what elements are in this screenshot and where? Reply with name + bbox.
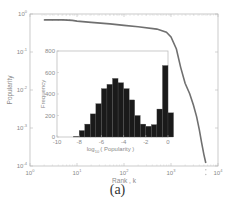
marker <box>66 15 67 16</box>
marker <box>158 15 159 16</box>
marker <box>122 15 123 16</box>
marker <box>154 15 155 16</box>
inset-x-tick-label: 0 <box>166 139 170 145</box>
histogram-bar <box>85 124 91 137</box>
histogram-bar <box>124 89 130 137</box>
histogram-bar <box>168 113 174 137</box>
data-marker <box>205 174 206 175</box>
inset-x-tick-label: -6 <box>99 139 105 145</box>
histogram-bar <box>146 126 152 137</box>
inset-y-axis-label: Frequency <box>40 80 46 108</box>
marker <box>98 15 99 16</box>
marker <box>166 15 167 16</box>
marker <box>210 15 211 16</box>
histogram-bar <box>96 104 102 137</box>
marker <box>178 15 179 16</box>
marker <box>82 15 83 16</box>
inset-y-tick-label: 200 <box>45 113 56 119</box>
marker <box>162 15 163 16</box>
marker <box>106 15 107 16</box>
marker <box>190 15 191 16</box>
marker <box>194 15 195 16</box>
marker <box>118 15 119 16</box>
histogram-bar <box>107 84 113 137</box>
histogram-bar <box>129 100 135 137</box>
x-tick-label: 101 <box>73 168 83 176</box>
marker <box>198 15 199 16</box>
x-tick-label: 104 <box>214 168 224 176</box>
marker <box>206 15 207 16</box>
y-tick-label: 10-1 <box>17 47 28 55</box>
histogram-bar <box>101 89 107 137</box>
data-marker <box>205 169 206 170</box>
marker <box>126 15 127 16</box>
y-tick-label: 10-2 <box>17 85 28 93</box>
y-axis-label: Popularity <box>6 75 14 105</box>
histogram-bar <box>113 78 119 137</box>
histogram-bar <box>151 125 157 137</box>
caption: (a) <box>0 182 235 198</box>
y-tick-label: 100 <box>18 9 28 17</box>
marker <box>74 15 75 16</box>
marker <box>130 15 131 16</box>
y-tick-label: 10-4 <box>17 161 28 169</box>
inset-x-tick-label: -8 <box>77 139 83 145</box>
histogram-bar <box>162 66 168 137</box>
histogram-bar <box>74 136 80 137</box>
marker <box>86 15 87 16</box>
marker <box>54 15 55 16</box>
x-tick-label: 100 <box>26 168 36 176</box>
marker <box>138 15 139 16</box>
histogram-bar <box>140 124 146 137</box>
marker <box>58 15 59 16</box>
marker <box>182 15 183 16</box>
marker <box>102 15 103 16</box>
marker <box>170 15 171 16</box>
marker <box>142 15 143 16</box>
marker <box>134 15 135 16</box>
marker <box>150 15 151 16</box>
marker <box>42 15 43 16</box>
inset-y-tick-label: 800 <box>45 48 56 54</box>
inset-x-tick-label: -2 <box>143 139 149 145</box>
marker <box>90 15 91 16</box>
marker <box>94 15 95 16</box>
marker <box>146 15 147 16</box>
marker <box>62 15 63 16</box>
marker <box>174 15 175 16</box>
marker <box>186 15 187 16</box>
marker <box>202 15 203 16</box>
marker <box>110 15 111 16</box>
histogram-bar <box>79 131 85 137</box>
x-tick-label: 103 <box>167 168 177 176</box>
marker <box>50 15 51 16</box>
inset-x-axis-label: log10 ( Popularity ) <box>87 146 135 154</box>
histogram-bar <box>157 109 163 137</box>
marker <box>46 15 47 16</box>
x-tick-label: 102 <box>120 168 130 176</box>
y-tick-label: 10-3 <box>17 123 28 131</box>
marker <box>114 15 115 16</box>
histogram-bar <box>118 83 124 137</box>
inset-y-tick-label: 400 <box>45 91 56 97</box>
inset-x-tick-label: -4 <box>121 139 127 145</box>
marker <box>78 15 79 16</box>
histogram-bar <box>90 114 96 137</box>
marker <box>70 15 71 16</box>
histogram-bar <box>135 116 141 138</box>
inset-y-tick-label: 600 <box>45 70 56 76</box>
